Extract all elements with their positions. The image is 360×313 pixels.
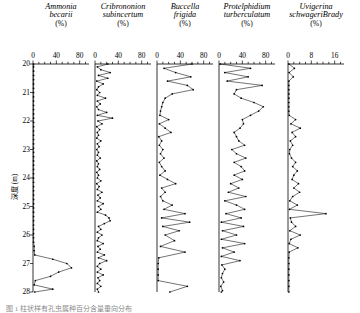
data-point	[33, 75, 35, 77]
data-point	[98, 174, 100, 176]
data-point	[157, 263, 159, 265]
data-point	[33, 207, 35, 209]
data-point	[224, 200, 226, 202]
data-point	[103, 223, 105, 225]
data-point	[34, 280, 36, 282]
data-point	[96, 183, 98, 185]
data-point	[191, 63, 193, 65]
data-point	[99, 103, 101, 105]
data-point	[158, 123, 160, 125]
data-point	[168, 119, 170, 121]
data-point	[33, 211, 35, 213]
data-point	[262, 106, 264, 108]
data-point	[162, 149, 164, 151]
data-point	[299, 234, 301, 236]
data-point	[33, 122, 35, 124]
data-point	[178, 230, 180, 232]
data-point	[174, 240, 176, 242]
data-point	[33, 173, 35, 175]
data-point	[101, 191, 103, 193]
data-point	[96, 271, 98, 273]
data-point	[99, 263, 101, 265]
data-point	[98, 75, 100, 77]
data-point	[33, 96, 35, 98]
data-point	[33, 199, 35, 201]
data-point	[297, 247, 299, 249]
data-point	[160, 196, 162, 198]
data-point	[160, 110, 162, 112]
data-point	[107, 77, 109, 79]
data-point	[258, 110, 260, 112]
data-point	[162, 200, 164, 202]
data-point	[164, 170, 166, 172]
data-point	[33, 160, 35, 162]
data-point	[175, 183, 177, 185]
series-line	[158, 64, 193, 292]
data-point	[99, 248, 101, 250]
x-tick-label: 0	[22, 51, 44, 60]
data-point	[296, 170, 298, 172]
data-point	[288, 89, 290, 91]
data-point	[58, 271, 60, 273]
data-point	[243, 123, 245, 125]
data-point	[240, 97, 242, 99]
data-point	[103, 254, 105, 256]
data-point	[33, 177, 35, 179]
data-point	[231, 149, 233, 151]
x-tick-label: 40	[169, 51, 191, 60]
data-point	[245, 157, 247, 159]
data-point	[33, 181, 35, 183]
data-point	[97, 120, 99, 122]
data-point	[236, 153, 238, 155]
data-point	[295, 161, 297, 163]
data-point	[102, 274, 104, 276]
data-point	[288, 102, 290, 104]
data-point	[164, 127, 166, 129]
y-tick-label: 22	[12, 116, 30, 125]
data-point	[33, 113, 35, 115]
data-point	[289, 140, 291, 142]
x-tick-label: 8	[300, 51, 322, 60]
data-point	[34, 291, 36, 293]
data-point	[289, 200, 291, 202]
data-point	[226, 80, 228, 82]
data-point	[98, 186, 100, 188]
data-point	[239, 127, 241, 129]
data-point	[33, 228, 35, 230]
y-tick-label: 25	[12, 202, 30, 211]
data-point	[102, 243, 104, 245]
data-point	[100, 228, 102, 230]
data-point	[289, 209, 291, 211]
data-point	[52, 258, 54, 260]
data-point	[33, 164, 35, 166]
data-point	[96, 166, 98, 168]
data-point	[161, 166, 163, 168]
data-point	[33, 139, 35, 141]
data-point	[102, 83, 104, 85]
data-point	[288, 274, 290, 276]
data-point	[171, 93, 173, 95]
data-point	[96, 95, 98, 97]
y-tick-label: 23	[12, 145, 30, 154]
data-point	[186, 85, 188, 87]
data-point	[289, 217, 291, 219]
data-point	[109, 72, 111, 74]
data-point	[250, 67, 252, 69]
data-point	[157, 280, 159, 282]
data-point	[233, 251, 235, 253]
data-point	[164, 191, 166, 193]
data-point	[161, 106, 163, 108]
data-point	[186, 285, 188, 287]
data-point	[162, 226, 164, 228]
plot-area	[0, 0, 360, 313]
data-point	[299, 127, 301, 129]
data-point	[288, 114, 290, 116]
data-point	[33, 284, 35, 286]
data-point	[99, 92, 101, 94]
data-point	[244, 209, 246, 211]
data-point	[109, 220, 111, 222]
data-point	[33, 63, 35, 65]
data-point	[99, 169, 101, 171]
data-point	[291, 157, 293, 159]
data-point	[33, 190, 35, 192]
